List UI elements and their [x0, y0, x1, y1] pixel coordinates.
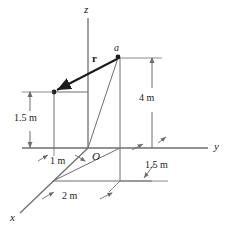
dimension-label-left-vertical: 1.5 m: [14, 113, 37, 123]
dim-lr-upper-arrow: [132, 144, 143, 150]
base-projection-lines: [53, 58, 152, 181]
dimension-label-right-vertical: 4 m: [139, 93, 154, 103]
dimension-bottom: [42, 181, 120, 199]
point-a-label: a: [114, 43, 119, 53]
origin-label: O: [92, 151, 100, 162]
y-axis-tick: [158, 137, 166, 143]
vector-r-arrow: [57, 59, 117, 90]
x-axis-label: x: [10, 212, 15, 223]
dim-1m-left-arrow: [38, 155, 48, 161]
left-rectangle: [54, 92, 88, 148]
axis-tick-marks: [158, 137, 166, 143]
dim-2m-right-arrow: [100, 193, 112, 199]
point-a-marker: [116, 55, 121, 60]
dim-2m-left-tick: [42, 181, 53, 192]
vector-r-label: r: [92, 53, 97, 64]
vector-diagram-figure: z y x a O r 1.5 m 1 m 4 m 1.5 m 2 m: [0, 0, 238, 237]
z-axis-label: z: [84, 4, 88, 15]
dimension-label-bottom: 2 m: [62, 191, 77, 201]
dimension-label-one-meter: 1 m: [50, 156, 65, 166]
dim-2m-right-tick: [109, 181, 120, 192]
dimension-label-lower-right: 1.5 m: [145, 160, 168, 170]
dim-2m-left-arrow: [42, 192, 54, 199]
dimension-right-vertical: [120, 58, 162, 148]
y-axis-label: y: [214, 141, 219, 152]
